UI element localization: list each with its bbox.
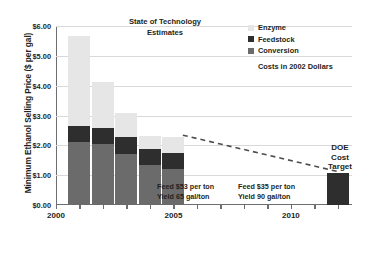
doe-label-line-2: Cost (318, 153, 362, 163)
legend-swatch-conversion (248, 48, 254, 54)
table-row (115, 26, 137, 205)
note-1-line-1: Feed $53 per ton (157, 182, 214, 192)
x-tick-label: 2010 (282, 211, 300, 220)
sot-title-line-2: Estimates (107, 27, 223, 38)
trend-line-path (183, 135, 338, 171)
table-row (92, 26, 114, 205)
y-tick-label: $2.00 (33, 141, 52, 150)
legend-item-feedstock: Feedstock (248, 34, 333, 46)
y-tick-label: $6.00 (33, 22, 52, 31)
legend-label-feedstock: Feedstock (258, 34, 295, 46)
x-tick-mark (197, 205, 198, 209)
doe-label-line-1: DOE (318, 143, 362, 153)
bar-segment-enzyme (139, 136, 161, 149)
bar-segment-feedstock (139, 149, 161, 165)
legend-item-enzyme: Enzyme (248, 22, 333, 34)
legend-label-enzyme: Enzyme (258, 22, 286, 34)
x-tick-mark (103, 205, 104, 209)
x-tick-mark (173, 205, 174, 209)
bar-segment-conversion (92, 144, 114, 205)
bar-segment-feedstock (92, 128, 114, 144)
x-tick-mark (56, 205, 57, 209)
legend-swatch-enzyme (248, 25, 254, 31)
y-tick-label: $0.00 (33, 201, 52, 210)
state-of-technology-title: State of Technology Estimates (107, 16, 223, 38)
y-tick-label: $5.00 (33, 51, 52, 60)
x-tick-mark (150, 205, 151, 209)
bar-segment-enzyme (92, 82, 114, 129)
x-tick-mark (267, 205, 268, 209)
table-row (162, 26, 184, 205)
doe-cost-target-bar (327, 173, 349, 205)
legend-swatch-feedstock (248, 36, 254, 42)
legend-item-conversion: Conversion (248, 45, 333, 57)
x-tick-mark (79, 205, 80, 209)
chart-container: Minimum Ethanol Selling Price ($ per gal… (0, 0, 366, 253)
x-tick-mark (291, 205, 292, 209)
note-2-line-2: Yield 90 gal/ton (238, 192, 295, 202)
bar-segment-feedstock (162, 153, 184, 169)
y-tick-label: $3.00 (33, 111, 52, 120)
note-1-line-2: Yield 65 gal/ton (157, 192, 214, 202)
bar-segment-enzyme (115, 113, 137, 138)
x-tick-mark (220, 205, 221, 209)
y-tick-label: $4.00 (33, 81, 52, 90)
legend-note: Costs in 2002 Dollars (258, 61, 333, 73)
x-tick-mark (126, 205, 127, 209)
doe-label-line-3: Target (318, 162, 362, 172)
x-tick-mark (338, 205, 339, 209)
annotation-note-2: Feed $35 per ton Yield 90 gal/ton (238, 182, 295, 202)
bar-segment-enzyme (68, 36, 90, 125)
x-tick-mark (314, 205, 315, 209)
x-tick-label: 2005 (165, 211, 183, 220)
x-tick-mark (244, 205, 245, 209)
bar-segment-feedstock (68, 126, 90, 142)
bar-segment-enzyme (162, 137, 184, 153)
bar-segment-feedstock (115, 137, 137, 153)
doe-cost-target-label: DOE Cost Target (318, 143, 362, 172)
x-tick-label: 2000 (47, 211, 65, 220)
chart-legend: Enzyme Feedstock Conversion Costs in 200… (248, 22, 333, 72)
legend-label-conversion: Conversion (258, 45, 299, 57)
table-row (68, 26, 90, 205)
y-tick-label: $1.00 (33, 171, 52, 180)
bar-segment-conversion (68, 142, 90, 205)
sot-title-line-1: State of Technology (107, 16, 223, 27)
bar-segment-conversion (115, 154, 137, 205)
note-2-line-1: Feed $35 per ton (238, 182, 295, 192)
table-row (139, 26, 161, 205)
annotation-note-1: Feed $53 per ton Yield 65 gal/ton (157, 182, 214, 202)
y-axis-title: Minimum Ethanol Selling Price ($ per gal… (23, 23, 33, 203)
